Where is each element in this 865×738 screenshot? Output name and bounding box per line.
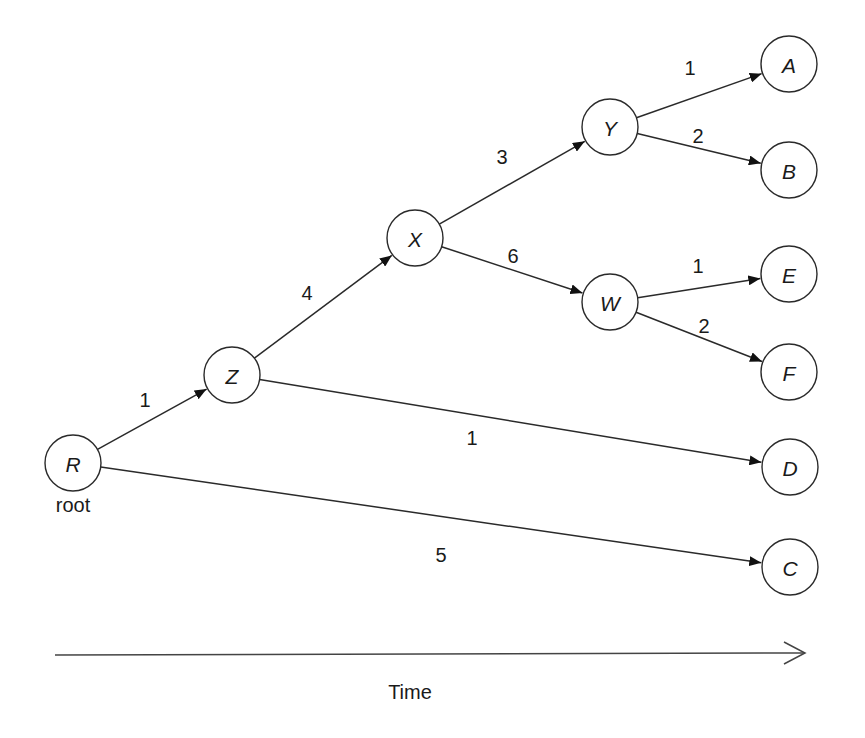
node-a: A [761, 36, 817, 92]
node-label: F [783, 362, 797, 385]
edge-arrow-line [260, 380, 762, 463]
node-e: E [761, 246, 817, 302]
node-label: W [600, 292, 622, 315]
edge-weight-label: 4 [301, 282, 312, 304]
node-d: D [762, 439, 818, 495]
node-label: A [780, 54, 796, 77]
node-w: W [582, 274, 638, 330]
node-label: D [782, 457, 797, 480]
edge-w-e [638, 278, 761, 297]
edge-weight-label: 5 [435, 544, 446, 566]
edge-y-a [636, 74, 761, 118]
edge-arrow-line [254, 255, 391, 358]
edge-weight-label: 1 [684, 57, 695, 79]
edge-weight-label: 6 [507, 245, 518, 267]
tree-diagram: 1436121215 RZXYWABEFDC root Time [0, 0, 865, 738]
edge-z-x [254, 255, 391, 358]
node-f: F [761, 344, 817, 400]
edge-weight-label: 3 [496, 146, 507, 168]
edge-weight-label: 1 [692, 255, 703, 277]
node-label: R [65, 453, 80, 476]
edge-z-d [260, 380, 762, 463]
node-y: Y [582, 99, 638, 155]
node-c: C [762, 539, 818, 595]
node-label: X [407, 228, 423, 251]
root-caption: root [56, 494, 91, 516]
edge-r-c [101, 467, 762, 563]
node-label: B [782, 160, 796, 183]
time-axis-label: Time [388, 681, 432, 703]
edge-arrow-line [636, 74, 761, 118]
edge-weight-label: 1 [139, 389, 150, 411]
edge-weight-label: 1 [466, 427, 477, 449]
edge-weight-label: 2 [692, 125, 703, 147]
node-b: B [761, 142, 817, 198]
edge-weight-label: 2 [698, 315, 709, 337]
node-r: R [45, 435, 101, 491]
time-axis-line [55, 653, 805, 655]
node-label: E [782, 264, 797, 287]
node-label: Y [603, 117, 619, 140]
node-z: Z [204, 347, 260, 403]
edge-arrow-line [638, 278, 761, 297]
node-x: X [387, 210, 443, 266]
time-axis [55, 642, 805, 664]
edges-layer [97, 74, 761, 563]
node-label: Z [225, 365, 240, 388]
edge-arrow-line [101, 467, 762, 563]
edge-x-y [439, 141, 584, 224]
edge-arrow-line [439, 141, 584, 224]
edge-arrow-line [97, 389, 206, 449]
node-label: C [782, 557, 798, 580]
edge-r-z [97, 389, 206, 449]
